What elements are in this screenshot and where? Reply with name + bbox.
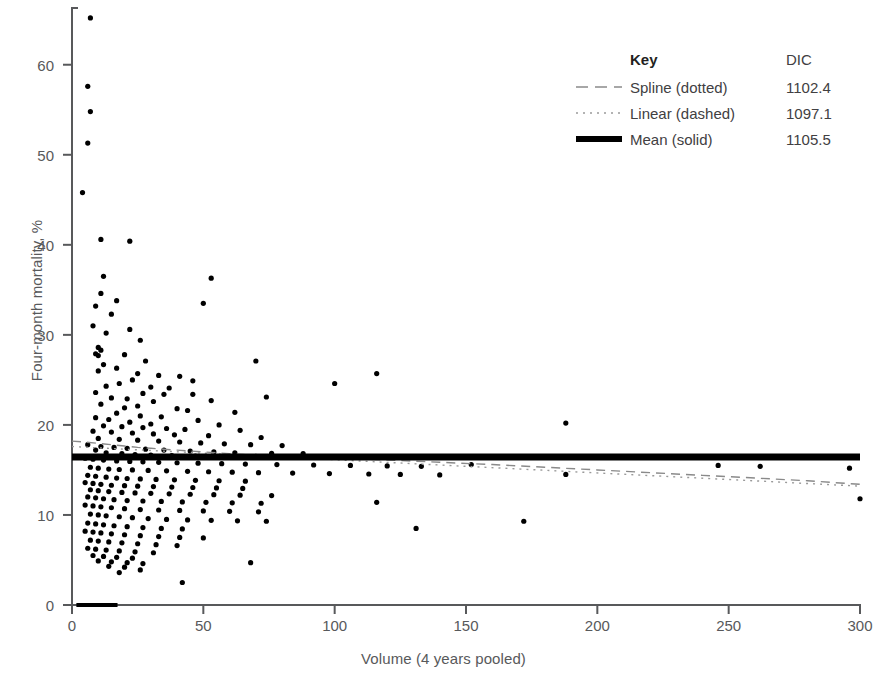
legend-rows: Spline (dotted)1102.4Linear (dashed)1097… [576,74,854,152]
legend-dic-value-2: 1105.5 [786,131,854,148]
x-tick-label-0: 0 [68,617,76,634]
legend-title: Key [630,51,786,68]
y-axis-title: Four-month mortality, % [28,161,45,441]
legend: Key DIC Spline (dotted)1102.4Linear (das… [576,44,854,152]
legend-label-1: Linear (dashed) [630,105,786,122]
legend-dic-header: DIC [786,51,854,68]
y-tick-label-20: 20 [14,416,54,433]
legend-label-2: Mean (solid) [630,131,786,148]
y-tick-label-0: 0 [14,597,54,614]
y-tick-label-50: 50 [14,146,54,163]
x-axis-title: Volume (4 years pooled) [0,650,887,667]
legend-swatch-dotted-icon [576,107,622,119]
legend-label-0: Spline (dotted) [630,79,786,96]
y-tick-label-30: 30 [14,326,54,343]
legend-row-2: Mean (solid)1105.5 [576,126,854,152]
figure-scatter-volume-mortality: Volume (4 years pooled) Four-month morta… [0,0,887,677]
y-tick-label-40: 40 [14,236,54,253]
x-tick-label-150: 150 [453,617,478,634]
x-tick-label-250: 250 [716,617,741,634]
legend-swatch-solid-icon [576,133,622,145]
legend-header-spacer [576,53,622,65]
legend-row-0: Spline (dotted)1102.4 [576,74,854,100]
legend-row-1: Linear (dashed)1097.1 [576,100,854,126]
legend-dic-value-0: 1102.4 [786,79,854,96]
x-tick-label-300: 300 [847,617,872,634]
y-tick-label-10: 10 [14,506,54,523]
legend-header: Key DIC [576,44,854,74]
x-tick-label-50: 50 [195,617,212,634]
legend-dic-value-1: 1097.1 [786,105,854,122]
y-tick-label-60: 60 [14,56,54,73]
trend-lines [72,441,860,486]
legend-swatch-dashed-icon [576,81,622,93]
trend-line-dashed [72,441,860,484]
x-tick-label-100: 100 [322,617,347,634]
x-tick-label-200: 200 [585,617,610,634]
